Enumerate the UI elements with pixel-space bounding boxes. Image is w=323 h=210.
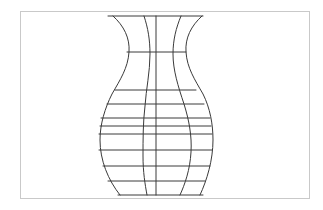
vase-contour-outer-right [186, 16, 213, 195]
vase-contour-outer-left [100, 16, 129, 195]
vase-drawing [0, 0, 323, 210]
vase-contour-inner-left [143, 16, 150, 195]
vase-contour-inner-right [173, 16, 191, 195]
